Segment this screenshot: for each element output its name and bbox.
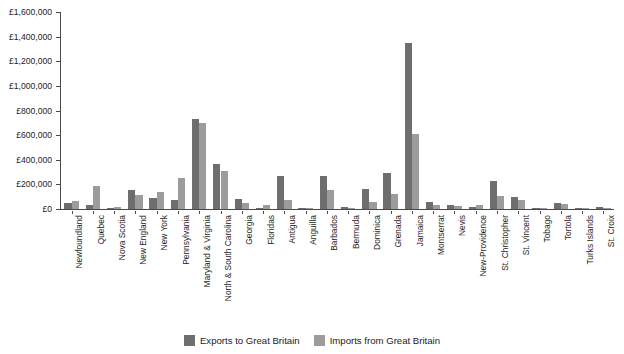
bar-group xyxy=(508,12,529,209)
bar-exports xyxy=(575,208,582,209)
x-axis-tick-label: Bermuda xyxy=(352,215,361,249)
bar-group xyxy=(550,12,571,209)
bar-group xyxy=(231,12,252,209)
y-tick-label: £1,600,000 xyxy=(9,8,52,17)
bar-imports xyxy=(497,196,504,209)
bar-exports xyxy=(383,173,390,209)
bar-exports xyxy=(192,119,199,209)
bar-imports xyxy=(157,192,164,209)
bar-exports xyxy=(107,208,114,209)
y-tick-mark xyxy=(56,160,60,161)
x-axis-tick-label: Georgia xyxy=(245,215,254,245)
bar-imports xyxy=(135,195,142,209)
bar-imports xyxy=(327,190,334,209)
bar-group xyxy=(380,12,401,209)
x-tick-mark xyxy=(348,211,349,214)
y-tick-label: £200,000 xyxy=(16,180,52,189)
bar-imports xyxy=(263,205,270,209)
x-axis-tick-label: New England xyxy=(139,215,148,265)
bar-exports xyxy=(128,190,135,209)
bar-group xyxy=(423,12,444,209)
y-tick-mark xyxy=(56,86,60,87)
bar-exports xyxy=(447,205,454,209)
bar-chart: £0£200,000£400,000£600,000£800,000£1,000… xyxy=(0,0,624,354)
y-tick-mark xyxy=(56,12,60,13)
x-tick-mark xyxy=(412,211,413,214)
bar-imports xyxy=(93,186,100,209)
x-axis-tick-label: New York xyxy=(160,215,169,250)
x-tick-mark xyxy=(433,211,434,214)
x-tick-mark xyxy=(369,211,370,214)
x-axis-tick-label: Jamaica xyxy=(416,215,425,246)
x-tick-mark xyxy=(603,211,604,214)
bar-exports xyxy=(426,202,433,209)
y-tick-label: £1,400,000 xyxy=(9,32,52,41)
x-axis-tick-label: Dominica xyxy=(373,215,382,250)
bar-imports xyxy=(348,208,355,209)
x-tick-mark xyxy=(454,211,455,214)
legend-swatch-exports xyxy=(184,335,195,346)
bar-group xyxy=(465,12,486,209)
bar-exports xyxy=(86,205,93,209)
bar-imports xyxy=(540,208,547,209)
x-axis-tick-label: Nova Scotia xyxy=(118,215,127,260)
x-tick-mark xyxy=(135,211,136,214)
x-axis-tick-label: Nevis xyxy=(458,215,467,236)
x-axis-tick-label: Anguilla xyxy=(309,215,318,245)
x-axis-tick-label: Grenada xyxy=(394,215,403,248)
bar-group xyxy=(61,12,82,209)
y-tick-mark xyxy=(56,61,60,62)
x-axis-tick-label: New-Providence xyxy=(479,215,488,276)
x-tick-mark xyxy=(114,211,115,214)
x-tick-mark xyxy=(497,211,498,214)
x-axis-tick-label: St. Croix xyxy=(607,215,616,247)
bar-imports xyxy=(476,205,483,209)
x-tick-mark xyxy=(476,211,477,214)
bar-exports xyxy=(596,207,603,209)
y-tick-mark xyxy=(56,111,60,112)
x-axis-tick-label: Antigua xyxy=(288,215,297,243)
bar-exports xyxy=(213,164,220,209)
y-tick-label: £400,000 xyxy=(16,155,52,164)
x-tick-mark xyxy=(518,211,519,214)
bar-exports xyxy=(149,198,156,209)
x-axis-tick-label: Newfoundland xyxy=(75,215,84,269)
legend-item-imports: Imports from Great Britain xyxy=(314,335,440,346)
bar-exports xyxy=(405,43,412,209)
x-tick-mark xyxy=(561,211,562,214)
y-tick-mark xyxy=(56,135,60,136)
bar-imports xyxy=(433,205,440,209)
bar-group xyxy=(338,12,359,209)
y-tick-label: £0 xyxy=(42,205,52,214)
bar-exports xyxy=(362,189,369,209)
bar-exports xyxy=(277,176,284,209)
x-axis-tick-label: Tortola xyxy=(564,215,573,240)
bar-group xyxy=(571,12,592,209)
bar-group xyxy=(359,12,380,209)
legend-label-imports: Imports from Great Britain xyxy=(330,335,440,346)
y-tick-label: £1,200,000 xyxy=(9,57,52,66)
x-tick-mark xyxy=(93,211,94,214)
x-axis-line xyxy=(60,209,614,210)
x-axis-tick-label: Maryland & Virginia xyxy=(203,215,212,287)
bar-group xyxy=(104,12,125,209)
x-axis-labels: NewfoundlandQuebecNova ScotiaNew England… xyxy=(61,211,614,316)
bar-imports xyxy=(306,208,313,209)
bar-exports xyxy=(469,207,476,209)
x-tick-mark xyxy=(582,211,583,214)
y-tick-mark xyxy=(56,184,60,185)
x-axis-tick-label: Montserrat xyxy=(437,215,446,255)
bar-exports xyxy=(298,208,305,209)
bar-group xyxy=(444,12,465,209)
y-tick-label: £1,000,000 xyxy=(9,81,52,90)
bar-group xyxy=(593,12,614,209)
x-axis-tick-label: North & South Carolina xyxy=(224,215,233,301)
bar-exports xyxy=(341,207,348,209)
y-tick-label: £800,000 xyxy=(16,106,52,115)
bar-exports xyxy=(171,200,178,209)
y-tick-mark xyxy=(56,37,60,38)
x-axis-tick-label: Pennsylvania xyxy=(182,215,191,265)
bar-exports xyxy=(490,181,497,209)
bar-group xyxy=(146,12,167,209)
legend-item-exports: Exports to Great Britain xyxy=(184,335,300,346)
